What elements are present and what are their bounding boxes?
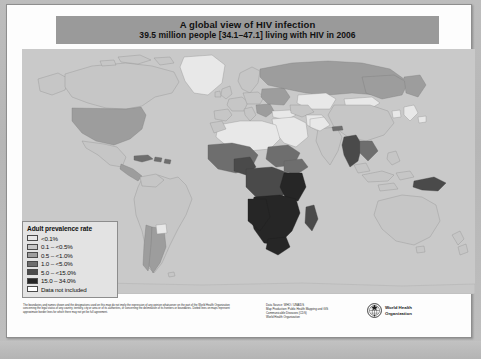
legend-label: <0.1%: [41, 235, 58, 242]
map-title: A global view of HIV infection: [180, 19, 316, 30]
legend-swatch: [27, 261, 38, 267]
map-subtitle: 39.5 million people [34.1–47.1] living w…: [139, 30, 355, 41]
legend-swatch: [27, 278, 38, 284]
map-legend: Adult prevalence rate <0.1% 0.1 – <0.5% …: [22, 221, 118, 298]
legend-item: <0.1%: [27, 234, 113, 242]
who-logo: World Health Organization: [367, 303, 412, 318]
legend-swatch: [27, 244, 38, 250]
legend-label: 15.0 – 34.0%: [41, 277, 76, 284]
legend-heading: Adult prevalence rate: [27, 225, 113, 232]
screenshot-root: A global view of HIV infection 39.5 mill…: [0, 0, 481, 359]
legend-label: 5.0 – <15.0%: [41, 269, 76, 276]
legend-swatch: [27, 286, 38, 292]
who-logo-text: World Health Organization: [385, 305, 412, 315]
legend-swatch: [27, 269, 38, 275]
legend-item: 1.0 – <5.0%: [27, 260, 113, 268]
who-emblem-icon: [367, 303, 382, 318]
legend-label: 1.0 – <5.0%: [41, 260, 73, 267]
who-name-line1: World Health: [385, 305, 412, 310]
who-name-line2: Organization: [385, 311, 412, 316]
legend-swatch: [27, 252, 38, 258]
source-line: World Health Organization: [266, 316, 362, 320]
map-document-card: A global view of HIV infection 39.5 mill…: [6, 4, 472, 338]
legend-label: 0.1 – <0.5%: [41, 243, 73, 250]
map-title-bar: A global view of HIV infection 39.5 mill…: [56, 16, 439, 44]
map-disclaimer: The boundaries and names shown and the d…: [23, 304, 241, 314]
legend-swatch: [27, 235, 38, 241]
legend-item: 5.0 – <15.0%: [27, 268, 113, 276]
legend-item: 0.1 – <0.5%: [27, 243, 113, 251]
legend-item: Data not included: [27, 285, 113, 293]
legend-item: 15.0 – 34.0%: [27, 277, 113, 285]
map-source-block: Data Source: WHO / UNAIDS Map Production…: [266, 304, 362, 320]
legend-label: 0.5 – <1.0%: [41, 252, 73, 259]
bottom-background-strip: [0, 341, 481, 359]
legend-item: 0.5 – <1.0%: [27, 251, 113, 259]
legend-label: Data not included: [41, 286, 87, 293]
